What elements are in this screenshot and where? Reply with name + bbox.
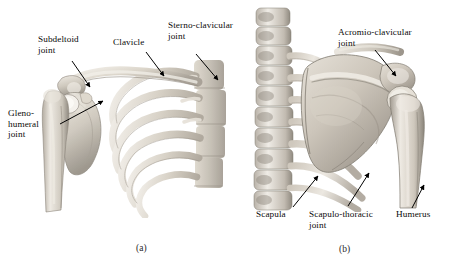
label-scapula: Scapula <box>256 209 286 220</box>
label-subdeltoid-joint: Subdeltoidjoint <box>38 34 79 55</box>
label-scapulo-thoracic-joint: Scapulo-thoracicjoint <box>309 209 373 230</box>
vertebral-column <box>254 8 293 210</box>
anatomy-figure: Subdeltoidjoint Clavicle Sterno-clavicul… <box>0 0 450 275</box>
label-humerus: Humerus <box>396 209 430 220</box>
humerus-posterior <box>390 94 424 208</box>
label-sterno-clavicular-joint: Sterno-clavicularjoint <box>168 20 233 41</box>
caption-panel-b: (b) <box>339 244 350 254</box>
rib-cage-anterior <box>113 71 200 216</box>
label-acromio-clavicular-joint: Acromio-clavicularjoint <box>338 27 412 48</box>
label-clavicle: Clavicle <box>113 37 144 48</box>
label-gleno-humeral-joint: Gleno-humeraljoint <box>8 108 39 140</box>
panel-a-anterior-shoulder <box>28 46 232 218</box>
caption-panel-a: (a) <box>136 243 147 253</box>
humerus-anterior <box>42 89 69 212</box>
